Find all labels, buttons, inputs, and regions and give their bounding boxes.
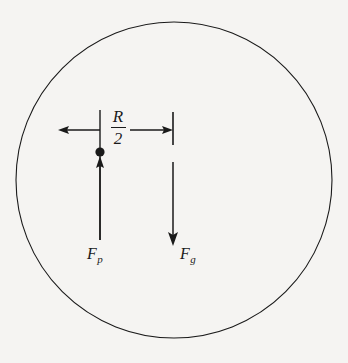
mass-point-dot (95, 147, 104, 156)
body-outline-circle (16, 22, 332, 338)
distance-arrow-right (130, 126, 173, 134)
gravity-force-vector (168, 162, 178, 246)
diagram-canvas (0, 0, 348, 363)
force-diagram-figure: R 2 Fp Fg (0, 0, 348, 363)
pressure-force-vector (96, 156, 104, 240)
distance-arrow-left (58, 126, 100, 134)
